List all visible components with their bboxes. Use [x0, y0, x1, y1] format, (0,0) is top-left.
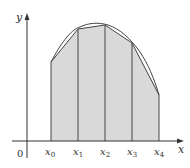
svg-text:x2: x2 [100, 146, 110, 159]
svg-text:x1: x1 [73, 146, 83, 159]
svg-text:x0: x0 [45, 146, 55, 159]
x-axis-label: x [178, 143, 185, 156]
y-axis-label: y [15, 11, 23, 24]
svg-text:x3: x3 [127, 146, 137, 159]
svg-text:x4: x4 [154, 146, 165, 159]
origin-label: 0 [17, 148, 23, 159]
y-axis-arrow-icon [25, 13, 30, 20]
trapezoid-diagram: y x 0 x0 x1 x2 x3 x4 [0, 0, 190, 168]
x-tick-labels: x0 x1 x2 x3 x4 [45, 146, 165, 159]
